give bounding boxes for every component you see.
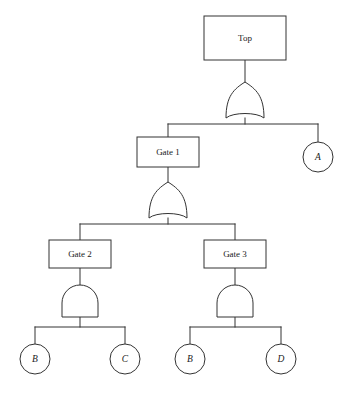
node-gate2[interactable]: Gate 2 [49,240,111,268]
node-eventB2[interactable]: B [175,344,205,374]
gate1-label: Gate 1 [156,147,180,157]
node-eventB1[interactable]: B [20,344,50,374]
or-gate-top[interactable] [226,82,264,118]
node-eventD[interactable]: D [266,344,296,374]
node-gate1[interactable]: Gate 1 [137,137,199,167]
gate3-label: Gate 3 [223,249,247,259]
and-gate-gate3[interactable] [217,285,253,317]
node-top[interactable]: Top [204,16,286,60]
or-gate-gate1[interactable] [149,182,187,218]
eventB1-label: B [32,354,38,364]
eventB2-label: B [187,354,193,364]
eventA-label: A [314,152,321,162]
gate2-label: Gate 2 [68,249,92,259]
fault-tree-diagram: Top Gate 1 Gate 2 Gate 3 A B [0,0,346,394]
eventC-label: C [122,354,129,364]
top-event-label: Top [238,33,252,43]
gate-layer [62,82,264,317]
node-gate3[interactable]: Gate 3 [204,240,266,268]
node-eventA[interactable]: A [303,142,333,172]
node-eventC[interactable]: C [110,344,140,374]
and-gate-gate2[interactable] [62,285,98,317]
eventD-label: D [277,354,285,364]
